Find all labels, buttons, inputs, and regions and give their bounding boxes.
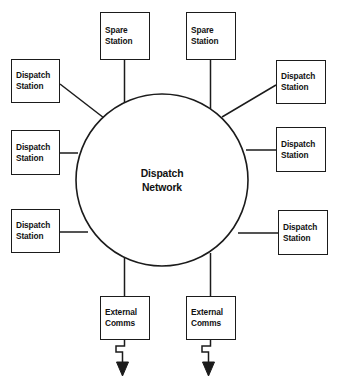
node-dispatch-station-upper-right[interactable]: Dispatch Station: [276, 60, 326, 104]
node-label-line-2: Station: [191, 36, 218, 47]
node-spare-station-left[interactable]: Spare Station: [100, 12, 150, 60]
outbound-arrowhead-left: [117, 362, 129, 376]
node-label-line-1: Dispatch: [16, 70, 50, 81]
node-dispatch-station-upper-left[interactable]: Dispatch Station: [11, 59, 60, 103]
node-label-line-1: Dispatch: [16, 220, 50, 231]
node-label-line-1: Spare: [105, 25, 128, 36]
node-label-line-1: Dispatch: [281, 139, 315, 150]
node-spare-station-right[interactable]: Spare Station: [186, 12, 236, 60]
node-label-line-2: Station: [283, 233, 310, 244]
connector-dispatch-station-upper-left: [60, 84, 104, 118]
node-label-line-2: Station: [16, 153, 43, 164]
node-label-line-1: Dispatch: [281, 71, 315, 82]
node-label-line-2: Station: [16, 231, 43, 242]
node-dispatch-station-middle-right[interactable]: Dispatch Station: [276, 127, 326, 172]
node-label-line-2: Station: [281, 82, 308, 93]
node-label-line-2: Comms: [105, 318, 135, 329]
node-label-line-2: Station: [281, 150, 308, 161]
node-label-line-2: Comms: [191, 318, 221, 329]
hub-label-line-2: Network: [76, 181, 248, 195]
node-label-line-1: External: [191, 307, 223, 318]
node-external-comms-right[interactable]: External Comms: [186, 296, 236, 340]
node-dispatch-station-lower-right[interactable]: Dispatch Station: [278, 210, 328, 255]
node-label-line-1: Spare: [191, 25, 214, 36]
outbound-zigzag-left: [116, 340, 125, 363]
node-label-line-2: Station: [105, 36, 132, 47]
dispatch-network-hub-label: Dispatch Network: [76, 167, 248, 194]
node-label-line-1: External: [105, 307, 137, 318]
connector-dispatch-station-upper-right: [222, 85, 276, 117]
outbound-arrowhead-right: [203, 362, 215, 376]
outbound-zigzag-right: [202, 340, 211, 363]
node-label-line-1: Dispatch: [16, 142, 50, 153]
node-external-comms-left[interactable]: External Comms: [100, 296, 150, 340]
node-label-line-2: Station: [16, 81, 43, 92]
hub-label-line-1: Dispatch: [76, 167, 248, 181]
node-dispatch-station-lower-left[interactable]: Dispatch Station: [11, 209, 60, 253]
node-dispatch-station-middle-left[interactable]: Dispatch Station: [11, 130, 60, 175]
node-label-line-1: Dispatch: [283, 222, 317, 233]
dispatch-network-diagram: Dispatch Network Spare Station Spare Sta…: [0, 0, 338, 379]
